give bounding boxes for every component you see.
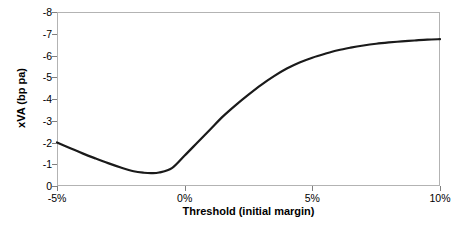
- x-axis-tick-mark: [57, 186, 58, 191]
- y-axis-tick-mark: [52, 34, 57, 35]
- x-axis-tick-mark: [440, 186, 441, 191]
- x-axis-tick-label: 10%: [429, 192, 450, 204]
- x-axis-title: Threshold (initial margin): [57, 205, 440, 217]
- y-axis-tick-label: -5: [28, 71, 52, 83]
- y-axis-tick-labels: -8-7-6-5-4-3-2-10: [28, 12, 52, 186]
- y-axis-tick-mark: [52, 121, 57, 122]
- y-axis-tick-label: -3: [28, 115, 52, 127]
- y-axis-tick-mark: [52, 164, 57, 165]
- y-axis-tick-mark: [52, 77, 57, 78]
- x-axis-tick-label: 5%: [305, 192, 320, 204]
- y-axis-tick-label: -1: [28, 158, 52, 170]
- x-axis-tick-mark: [312, 186, 313, 191]
- line-series-xva: [57, 39, 440, 173]
- series-plot: [57, 12, 440, 186]
- y-axis-tick-mark: [52, 99, 57, 100]
- chart-container: xVA (bp pa) -8-7-6-5-4-3-2-10 Threshold …: [0, 0, 465, 235]
- y-axis-tick-label: 0: [28, 180, 52, 192]
- y-axis-tick-mark: [52, 143, 57, 144]
- x-axis-tick-label: -5%: [48, 192, 67, 204]
- y-axis-tick-mark: [52, 56, 57, 57]
- y-axis-tick-label: -6: [28, 50, 52, 62]
- y-axis-tick-label: -2: [28, 137, 52, 149]
- y-axis-tick-mark: [52, 12, 57, 13]
- y-axis-tick-label: -4: [28, 93, 52, 105]
- y-axis-tick-label: -8: [28, 6, 52, 18]
- y-axis-tick-label: -7: [28, 28, 52, 40]
- x-axis-tick-label: 0%: [177, 192, 192, 204]
- x-axis-tick-mark: [185, 186, 186, 191]
